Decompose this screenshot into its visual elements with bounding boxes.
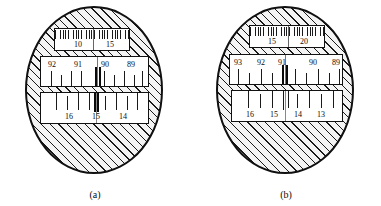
a-top-fine-ticks — [55, 30, 129, 39]
b-bot-tick — [283, 91, 284, 110]
b-mid-label-1: 92 — [257, 59, 265, 67]
b-bottom-scale-window: 16 15 14 13 — [231, 90, 343, 122]
a-bot-tick — [105, 96, 106, 110]
a-bot-tick-bold — [97, 93, 99, 112]
b-bot-tick — [309, 91, 310, 108]
a-top-label-1: 15 — [106, 41, 114, 49]
b-mid-tick — [329, 73, 330, 85]
a-mid-tick — [134, 75, 135, 87]
figure-b: 15 20 93 — [191, 0, 381, 206]
b-mid-label-4: 89 — [332, 59, 340, 67]
b-mid-tick — [306, 73, 307, 85]
a-bot-tick — [56, 93, 57, 110]
b-mid-tick-bold — [282, 65, 284, 85]
a-middle-index-line — [97, 57, 98, 87]
a-mid-tick — [81, 71, 82, 87]
b-mid-tick — [249, 73, 250, 85]
b-bot-tick — [321, 94, 322, 108]
figure-a: 10 15 92 — [0, 0, 190, 206]
b-mid-tick — [295, 69, 296, 85]
figure-pair: 10 15 92 — [0, 0, 381, 206]
a-top-index-line — [93, 29, 94, 51]
a-mid-label-2: 90 — [101, 61, 109, 69]
a-bot-label-0: 16 — [65, 113, 73, 121]
b-top-fine-ticks — [250, 27, 324, 36]
b-bot-tick — [248, 91, 249, 108]
b-top-fine-scale-window: 15 20 — [249, 25, 325, 48]
a-mid-label-3: 89 — [127, 61, 135, 69]
b-mid-label-2: 91 — [278, 59, 286, 67]
b-mid-label-3: 90 — [309, 59, 317, 67]
b-mid-tick — [272, 73, 273, 85]
b-mid-tick — [261, 69, 262, 85]
b-bot-label-0: 16 — [246, 111, 254, 119]
a-mid-tick — [124, 71, 125, 87]
caption-a: (a) — [89, 189, 100, 200]
b-middle-scale-window: 93 92 91 90 89 — [229, 54, 343, 85]
b-bot-label-2: 14 — [294, 111, 302, 119]
b-bot-tick — [272, 91, 273, 108]
hatched-disc-b: 15 20 93 — [216, 6, 356, 176]
a-bot-tick — [116, 93, 117, 110]
b-bot-tick — [288, 91, 289, 108]
a-mid-tick — [104, 71, 105, 87]
b-mid-tick — [318, 69, 319, 85]
a-bot-tick — [67, 96, 68, 110]
a-top-fine-scale-window: 10 15 — [54, 28, 130, 51]
b-top-index-line — [288, 26, 289, 48]
a-bot-tick-bold — [94, 93, 96, 112]
a-mid-tick — [142, 71, 143, 87]
disc-outline-a: 10 15 92 — [25, 6, 163, 174]
hatched-disc-a: 10 15 92 — [25, 6, 165, 176]
a-bot-tick — [78, 93, 79, 110]
a-mid-tick — [61, 75, 62, 87]
caption-b: (b) — [280, 189, 292, 200]
a-bot-label-2: 14 — [119, 113, 127, 121]
a-mid-label-0: 92 — [48, 61, 56, 69]
b-bot-tick — [333, 91, 334, 108]
b-mid-tick-bold — [286, 65, 288, 85]
a-mid-tick — [114, 75, 115, 87]
a-middle-scale-window: 92 91 90 89 — [40, 56, 149, 87]
a-mid-label-1: 91 — [74, 61, 82, 69]
a-top-label-0: 10 — [74, 41, 82, 49]
b-bot-tick — [297, 94, 298, 108]
b-top-label-0: 15 — [268, 38, 276, 46]
a-bottom-scale-window: 16 15 14 — [40, 92, 149, 124]
a-bot-tick — [89, 93, 90, 110]
a-mid-tick — [51, 71, 52, 87]
a-bot-tick — [137, 93, 138, 110]
b-bot-tick — [260, 94, 261, 108]
a-mid-tick-bold — [95, 67, 97, 87]
b-mid-tick — [238, 69, 239, 85]
b-bottom-index-line — [285, 91, 286, 122]
b-bot-label-1: 15 — [270, 111, 278, 119]
a-mid-tick — [71, 71, 72, 87]
b-mid-tick — [339, 69, 340, 85]
a-bot-label-1: 15 — [92, 113, 100, 121]
a-bot-tick — [127, 96, 128, 110]
b-mid-label-0: 93 — [234, 59, 242, 67]
disc-outline-b: 15 20 93 — [216, 6, 354, 174]
b-bot-label-3: 13 — [317, 111, 325, 119]
b-top-label-1: 20 — [300, 38, 308, 46]
a-mid-tick-bold — [99, 67, 101, 87]
